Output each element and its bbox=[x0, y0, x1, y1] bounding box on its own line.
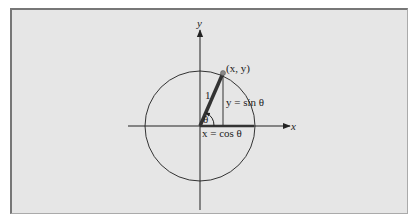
y-axis-label: y bbox=[196, 17, 202, 29]
cos-label: x = cos θ bbox=[202, 127, 242, 139]
unit-circle-diagram: y x (x, y) 1 θ y = sin θ x = cos θ bbox=[0, 0, 415, 220]
radius-label: 1 bbox=[205, 89, 211, 101]
x-axis-label: x bbox=[290, 120, 296, 132]
point-label: (x, y) bbox=[226, 62, 250, 75]
point-marker bbox=[221, 71, 226, 76]
angle-label: θ bbox=[203, 113, 208, 125]
sin-label: y = sin θ bbox=[226, 96, 264, 108]
